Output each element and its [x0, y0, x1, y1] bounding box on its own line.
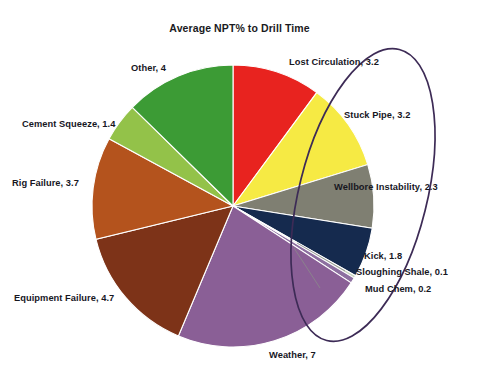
chart-canvas: Average NPT% to Drill Time Lost Circulat…	[0, 0, 479, 373]
slice-label-mud-chem: Mud Chem, 0.2	[365, 284, 431, 295]
slice-label-weather: Weather, 7	[269, 350, 316, 361]
slice-label-cement-squeeze: Cement Squeeze, 1.4	[22, 119, 115, 130]
slice-label-kick: Kick, 1.8	[364, 251, 402, 262]
pie-slices	[92, 65, 374, 347]
slice-label-rig-failure: Rig Failure, 3.7	[12, 178, 79, 189]
slice-label-other: Other, 4	[131, 63, 166, 74]
slice-label-equipment-failure: Equipment Failure, 4.7	[14, 293, 114, 304]
slice-label-stuck-pipe: Stuck Pipe, 3.2	[344, 110, 410, 121]
slice-label-lost-circulation: Lost Circulation, 3.2	[289, 57, 379, 68]
slice-label-sloughing-shale: Sloughing Shale, 0.1	[356, 267, 448, 278]
slice-label-wellbore-instability: Wellbore Instability, 2.3	[334, 182, 438, 193]
